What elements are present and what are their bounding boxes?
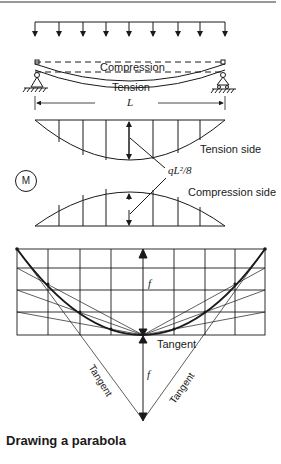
moment-symbol: M — [15, 170, 37, 192]
tangent-label-center: Tangent — [157, 339, 196, 350]
moment-diagram-tension — [35, 120, 225, 168]
span-label: L — [127, 97, 133, 108]
height-label-top: f — [148, 278, 151, 289]
distributed-load — [35, 22, 225, 36]
height-label-bottom: f — [147, 369, 150, 380]
tension-label: Tension — [112, 82, 150, 93]
compression-label: Compression — [100, 62, 165, 73]
max-moment-label: qL²/8 — [168, 165, 191, 176]
right-roller-support — [211, 73, 236, 94]
left-pin-support — [23, 73, 48, 93]
parabola-curve — [17, 249, 265, 335]
tension-side-label: Tension side — [200, 144, 261, 155]
figure-caption: Drawing a parabola — [6, 433, 126, 448]
parabola-points — [15, 247, 267, 330]
compression-side-label: Compression side — [188, 187, 276, 198]
